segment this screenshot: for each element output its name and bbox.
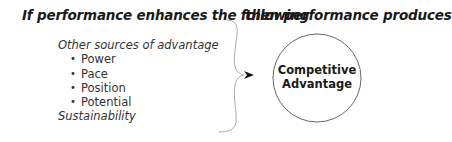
arrow-head-icon: [244, 71, 254, 79]
outcome-line-2: Advantage: [273, 77, 361, 91]
outcome-label: Competitive Advantage: [273, 63, 361, 91]
outcome-line-1: Competitive: [273, 63, 361, 77]
curly-brace-icon: [219, 20, 244, 132]
